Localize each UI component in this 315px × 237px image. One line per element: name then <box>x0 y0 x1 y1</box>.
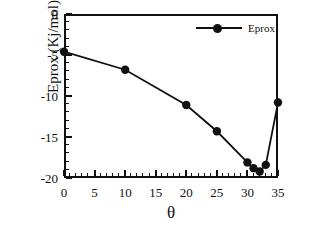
plot-area <box>64 14 278 178</box>
x-tick-label: 15 <box>141 186 171 199</box>
legend-label-eprox: Eprox <box>248 22 275 34</box>
data-point <box>121 66 129 74</box>
chart-figure: 0-5-10-15-20 05101520253035 Eprox (Kj/mo… <box>0 0 315 237</box>
series-markers-eprox <box>60 48 282 176</box>
data-point <box>262 161 270 169</box>
data-point <box>274 98 282 106</box>
x-tick-label: 5 <box>80 186 110 199</box>
series-eprox <box>64 14 278 178</box>
legend-marker-icon <box>196 23 242 33</box>
data-point <box>213 127 221 135</box>
x-tick-label: 10 <box>110 186 140 199</box>
data-point <box>243 158 251 166</box>
data-point <box>182 101 190 109</box>
y-tick-label: -15 <box>22 131 58 144</box>
legend: Eprox <box>196 22 275 34</box>
x-axis-title: θ <box>64 203 278 223</box>
x-tick-label: 25 <box>202 186 232 199</box>
y-axis-title: Eprox (Kj/mol) <box>45 0 62 112</box>
x-tick-label: 20 <box>171 186 201 199</box>
y-tick-label: -20 <box>22 172 58 185</box>
x-tick-label: 30 <box>232 186 262 199</box>
x-tick-label: 35 <box>263 186 293 199</box>
data-point <box>255 167 263 175</box>
x-tick-label: 0 <box>49 186 79 199</box>
series-line-eprox <box>64 52 278 172</box>
